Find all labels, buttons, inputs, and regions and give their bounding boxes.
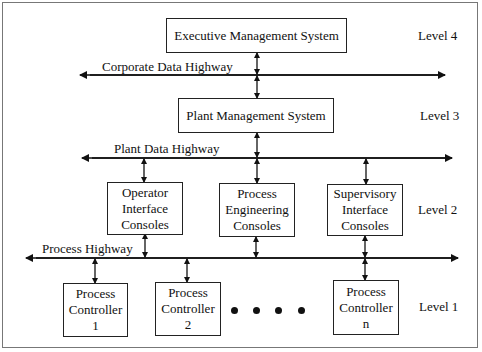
engineering-line-1: Process	[225, 186, 289, 202]
ellipsis-dot	[253, 307, 260, 314]
pcn-line-2: Controller	[339, 300, 392, 316]
supervisory-interface-box: Supervisory Interface Consoles	[327, 184, 403, 236]
pc2-line-3: 2	[161, 317, 214, 333]
pc2-line-2: Controller	[161, 301, 214, 317]
plant-management-label: Plant Management System	[186, 108, 325, 124]
engineering-line-2: Engineering	[225, 202, 289, 218]
process-controller-1-box: Process Controller 1	[63, 283, 128, 337]
level-2-label: Level 2	[418, 202, 457, 218]
ellipsis-dot	[298, 307, 305, 314]
pc2-line-1: Process	[161, 285, 214, 301]
executive-management-label: Executive Management System	[174, 28, 339, 44]
level-4-label: Level 4	[418, 28, 457, 44]
supervisory-line-3: Consoles	[334, 218, 397, 234]
operator-line-2: Interface	[121, 201, 169, 217]
corporate-highway-label: Corporate Data Highway	[102, 59, 233, 75]
supervisory-line-2: Interface	[334, 202, 397, 218]
pcn-line-1: Process	[339, 284, 392, 300]
engineering-line-3: Consoles	[225, 218, 289, 234]
operator-interface-box: Operator Interface Consoles	[107, 182, 183, 235]
pc1-line-3: 1	[69, 318, 122, 334]
process-engineering-box: Process Engineering Consoles	[219, 183, 295, 237]
level-3-label: Level 3	[420, 108, 459, 124]
pcn-line-3: n	[339, 316, 392, 332]
pc1-line-2: Controller	[69, 302, 122, 318]
pc1-line-1: Process	[69, 286, 122, 302]
plant-highway-label: Plant Data Highway	[114, 141, 219, 157]
process-controller-n-box: Process Controller n	[333, 280, 399, 335]
operator-line-1: Operator	[121, 185, 169, 201]
ellipsis-dot	[231, 307, 238, 314]
supervisory-line-1: Supervisory	[334, 186, 397, 202]
executive-management-box: Executive Management System	[166, 18, 347, 53]
process-controller-2-box: Process Controller 2	[155, 282, 221, 336]
operator-line-3: Consoles	[121, 217, 169, 233]
ellipsis-dot	[275, 307, 282, 314]
level-1-label: Level 1	[419, 299, 458, 315]
process-highway-label: Process Highway	[42, 241, 133, 257]
plant-management-box: Plant Management System	[178, 98, 334, 133]
